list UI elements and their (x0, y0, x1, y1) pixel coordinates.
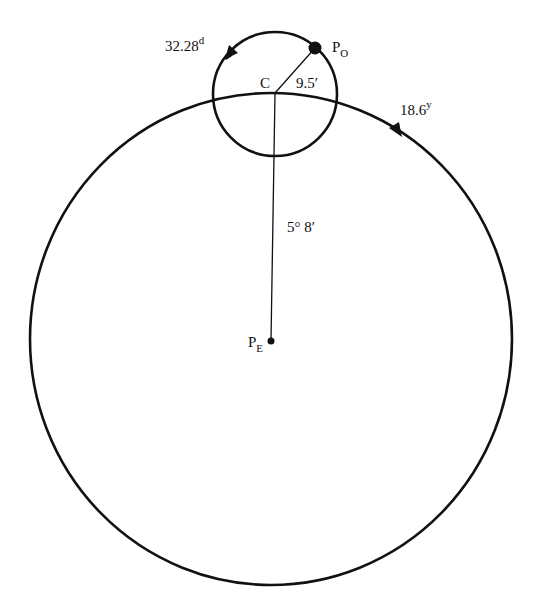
node-period-label: 18.6y (400, 98, 432, 118)
center-label: C (260, 75, 270, 91)
pole-precession-diagram: 32.28d PO C 9.5′ 18.6y 5° 8′ PE (0, 0, 537, 613)
ecliptic-pole-point (268, 338, 275, 345)
inclination-label: 5° 8′ (287, 219, 315, 235)
orbit-pole-label: PO (332, 39, 348, 59)
ecliptic-pole-label: PE (248, 334, 263, 354)
orbit-pole-point (309, 42, 322, 55)
moon-period-label: 32.28d (165, 34, 205, 54)
small-radius-label: 9.5′ (296, 75, 318, 91)
inclination-line (271, 93, 275, 341)
